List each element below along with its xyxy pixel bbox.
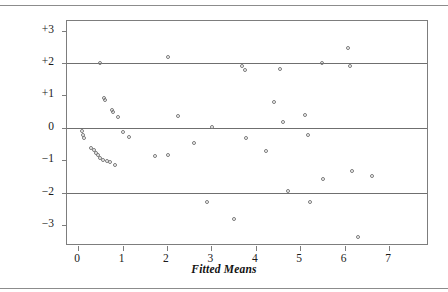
- x-tick: [123, 246, 124, 251]
- x-tick: [345, 246, 346, 251]
- data-point: [82, 136, 86, 140]
- plot-area: [66, 20, 428, 245]
- data-point: [205, 200, 209, 204]
- y-tick: [62, 160, 67, 161]
- y-tick: [62, 63, 67, 64]
- data-point: [348, 64, 352, 68]
- y-tick-label: −2: [26, 186, 54, 196]
- x-axis-title: Fitted Means: [0, 263, 448, 275]
- data-point: [281, 120, 285, 124]
- data-point: [127, 135, 131, 139]
- y-tick-label: +3: [26, 24, 54, 34]
- y-tick: [62, 31, 67, 32]
- data-point: [108, 160, 112, 164]
- data-point: [306, 133, 310, 137]
- y-tick-label: +2: [26, 56, 54, 66]
- data-point: [272, 100, 276, 104]
- data-point: [103, 98, 107, 102]
- x-tick: [211, 246, 212, 251]
- data-point: [116, 115, 120, 119]
- data-point: [166, 153, 170, 157]
- y-tick: [62, 225, 67, 226]
- x-tick: [78, 246, 79, 251]
- y-tick-label: −1: [26, 153, 54, 163]
- data-point: [350, 169, 354, 173]
- data-point: [153, 154, 157, 158]
- data-point: [346, 46, 350, 50]
- data-point: [176, 114, 180, 118]
- y-tick: [62, 95, 67, 96]
- x-tick: [389, 246, 390, 251]
- y-tick-label: −3: [26, 218, 54, 228]
- data-point: [111, 110, 115, 114]
- data-point: [98, 61, 102, 65]
- data-point: [264, 149, 268, 153]
- reference-line-yneg2: [67, 193, 427, 194]
- data-point: [243, 68, 247, 72]
- data-point: [356, 235, 360, 239]
- figure-bottom-rule: [0, 288, 448, 289]
- data-point: [320, 61, 324, 65]
- data-point: [166, 55, 170, 59]
- data-point: [232, 217, 236, 221]
- reference-line-y0: [67, 128, 427, 129]
- reference-line-y2: [67, 63, 427, 64]
- data-point: [121, 130, 125, 134]
- y-tick: [62, 128, 67, 129]
- data-point: [321, 177, 325, 181]
- data-point: [278, 67, 282, 71]
- data-point: [192, 141, 196, 145]
- x-tick: [300, 246, 301, 251]
- x-tick: [167, 246, 168, 251]
- deviance-residual-plot: Deviance Residual +3+2+10−1−2−3 01234567…: [0, 0, 448, 292]
- figure-top-rule: [0, 5, 448, 6]
- data-point: [308, 200, 312, 204]
- data-point: [244, 136, 248, 140]
- y-tick-label: 0: [26, 121, 54, 131]
- data-point: [113, 163, 117, 167]
- y-tick-label: +1: [26, 88, 54, 98]
- x-tick: [256, 246, 257, 251]
- data-point: [370, 174, 374, 178]
- data-point: [303, 113, 307, 117]
- y-tick: [62, 193, 67, 194]
- data-point: [240, 64, 244, 68]
